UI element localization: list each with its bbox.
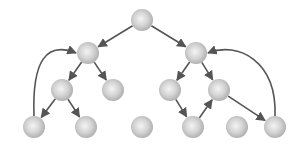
edge-arrow-root-to-b bbox=[151, 26, 185, 47]
edge-arrow-b1-to-b1a bbox=[176, 99, 187, 116]
edge-arrow-a1-to-a1a bbox=[41, 99, 55, 118]
node-b1 bbox=[159, 79, 181, 101]
edge-arrow-b-to-b2 bbox=[202, 62, 213, 79]
node-b bbox=[185, 42, 207, 64]
edge-arrow-b-to-b1 bbox=[177, 62, 190, 80]
node-c bbox=[131, 116, 153, 138]
edge-arrow-a-to-a2 bbox=[94, 62, 106, 80]
node-b2a bbox=[264, 116, 286, 138]
edge-arrow-a-to-a1 bbox=[69, 62, 82, 80]
diagram-canvas bbox=[0, 0, 302, 148]
edge-arrow-b1a-to-b2 bbox=[199, 100, 212, 118]
node-a1a bbox=[23, 116, 45, 138]
edge-arrow-root-to-a bbox=[98, 26, 132, 47]
node-a1b bbox=[75, 116, 97, 138]
edges-layer bbox=[34, 26, 275, 121]
edge-arrow-a1-to-a1b bbox=[68, 99, 79, 117]
node-b1a bbox=[182, 116, 204, 138]
tree-diagram bbox=[0, 0, 302, 148]
node-a bbox=[77, 42, 99, 64]
node-d bbox=[226, 116, 248, 138]
node-b2 bbox=[208, 79, 230, 101]
node-a1 bbox=[51, 79, 73, 101]
node-a2 bbox=[102, 79, 124, 101]
node-root bbox=[131, 9, 153, 31]
